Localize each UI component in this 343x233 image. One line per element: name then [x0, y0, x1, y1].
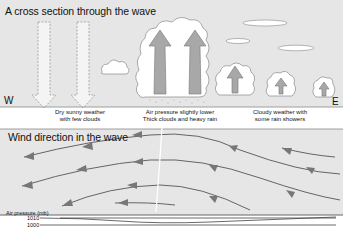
- caption-showers: Cloudy weather with some rain showers: [240, 109, 320, 122]
- isobar-line: [40, 217, 336, 225]
- cirrus-cloud-icon: [226, 20, 314, 51]
- wind-streamline: [22, 134, 340, 210]
- front-line: [156, 127, 162, 212]
- pressure-1010: 1010: [27, 215, 39, 221]
- pressure-1000: 1000: [27, 222, 39, 228]
- wind-title: Wind direction in the wave: [8, 131, 128, 143]
- rain-icon: [149, 99, 204, 103]
- cloud-icon: [101, 60, 129, 74]
- caption-dry: Dry sunny weather with few clouds: [40, 109, 120, 122]
- east-label: E: [332, 96, 339, 107]
- cross-section-title: A cross section through the wave: [5, 5, 156, 17]
- sinking-air-arrow-icon: [32, 22, 95, 108]
- west-label: W: [4, 95, 13, 106]
- caption-rain: Air pressure slightly lower Thick clouds…: [135, 109, 225, 122]
